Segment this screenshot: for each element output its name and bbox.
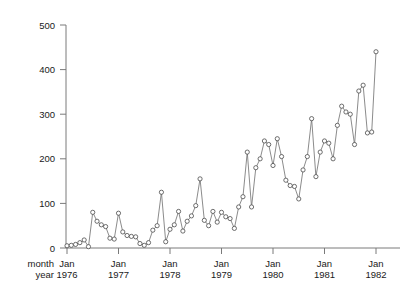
x-tick-year-1977: 1977: [108, 269, 129, 280]
data-point: [344, 110, 348, 114]
data-point: [198, 177, 202, 181]
y-tick-label-300: 300: [39, 109, 55, 120]
data-point: [327, 141, 331, 145]
y-tick-label-400: 400: [39, 64, 55, 75]
data-point: [134, 235, 138, 239]
data-point: [348, 112, 352, 116]
data-point: [352, 142, 356, 146]
data-point: [318, 150, 322, 154]
data-point: [142, 243, 146, 247]
data-point: [224, 215, 228, 219]
data-point: [104, 224, 108, 228]
data-point: [121, 230, 125, 234]
data-point: [172, 223, 176, 227]
x-tick-month-1978: Jan: [162, 258, 177, 269]
data-point: [314, 175, 318, 179]
data-point: [159, 190, 163, 194]
data-point: [181, 229, 185, 233]
data-point: [99, 223, 103, 227]
data-point: [305, 154, 309, 158]
data-point: [207, 224, 211, 228]
data-point: [125, 233, 129, 237]
data-point: [258, 157, 262, 161]
data-point: [219, 210, 223, 214]
data-point: [301, 168, 305, 172]
data-point: [370, 130, 374, 134]
data-point: [202, 218, 206, 222]
data-point: [374, 50, 378, 54]
x-tick-year-1979: 1979: [211, 269, 232, 280]
data-point: [228, 216, 232, 220]
data-point: [288, 183, 292, 187]
data-point: [151, 228, 155, 232]
data-point: [254, 166, 258, 170]
data-point: [176, 209, 180, 213]
x-tick-month-1979: Jan: [214, 258, 229, 269]
x-tick-year-1981: 1981: [314, 269, 335, 280]
y-tick-label-500: 500: [39, 20, 55, 31]
data-point: [164, 240, 168, 244]
x-tick-month-1981: Jan: [317, 258, 332, 269]
data-point: [215, 220, 219, 224]
data-point: [310, 117, 314, 121]
data-point: [129, 234, 133, 238]
data-point: [194, 204, 198, 208]
data-point: [155, 224, 159, 228]
data-point: [91, 210, 95, 214]
y-tick-label-100: 100: [39, 198, 55, 209]
chart-canvas: 0100200300400500Jan1976Jan1977Jan1978Jan…: [0, 0, 410, 284]
data-point: [86, 245, 90, 249]
data-point: [138, 241, 142, 245]
data-point: [112, 237, 116, 241]
data-point: [95, 219, 99, 223]
data-point: [189, 214, 193, 218]
data-point: [284, 178, 288, 182]
x-tick-year-1978: 1978: [159, 269, 180, 280]
data-point: [340, 104, 344, 108]
data-point: [245, 150, 249, 154]
data-point: [232, 226, 236, 230]
data-point: [331, 157, 335, 161]
x-tick-year-1980: 1980: [262, 269, 283, 280]
data-point: [357, 89, 361, 93]
data-point: [65, 244, 69, 248]
x-tick-year-1976: 1976: [56, 269, 77, 280]
data-point: [297, 197, 301, 201]
data-point: [292, 184, 296, 188]
data-point: [211, 209, 215, 213]
data-point: [335, 123, 339, 127]
data-point: [82, 238, 86, 242]
data-point: [73, 242, 77, 246]
line-chart: 0100200300400500Jan1976Jan1977Jan1978Jan…: [0, 0, 410, 284]
data-point: [168, 227, 172, 231]
data-point: [262, 139, 266, 143]
y-tick-label-200: 200: [39, 153, 55, 164]
x-tick-year-1982: 1982: [365, 269, 386, 280]
data-point: [116, 211, 120, 215]
data-point: [69, 243, 73, 247]
data-point: [271, 163, 275, 167]
axis-row-label-year: year: [36, 269, 54, 280]
axis-row-label-month: month: [28, 258, 54, 269]
data-point: [185, 219, 189, 223]
data-point: [146, 241, 150, 245]
x-tick-month-1977: Jan: [111, 258, 126, 269]
data-point: [275, 137, 279, 141]
data-point: [249, 205, 253, 209]
data-point: [237, 205, 241, 209]
x-tick-month-1982: Jan: [368, 258, 383, 269]
data-point: [322, 139, 326, 143]
data-point: [267, 142, 271, 146]
data-point: [365, 131, 369, 135]
y-tick-label-0: 0: [50, 243, 55, 254]
data-point: [78, 241, 82, 245]
data-point: [279, 154, 283, 158]
data-point: [361, 83, 365, 87]
data-point: [241, 195, 245, 199]
x-tick-month-1980: Jan: [265, 258, 280, 269]
series-line: [67, 52, 376, 247]
x-tick-month-1976: Jan: [59, 258, 74, 269]
data-point: [108, 236, 112, 240]
